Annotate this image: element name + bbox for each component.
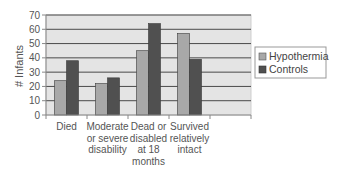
legend: Hypothermia Controls (255, 47, 329, 78)
bar-hypothermia (55, 81, 67, 115)
legend-label-controls: Controls (269, 63, 308, 75)
legend-swatch-hypothermia (259, 53, 266, 60)
y-tick-label: 30 (29, 67, 41, 78)
x-category-label: Died (56, 121, 77, 132)
y-axis-label: # Infants (13, 44, 25, 87)
y-tick-label: 60 (29, 24, 41, 35)
x-category-label: or severe (87, 133, 129, 144)
legend-label-hypothermia: Hypothermia (269, 50, 329, 62)
bar-controls (190, 59, 202, 115)
y-axis: 010203040506070 (29, 10, 46, 121)
x-category-label: months (132, 156, 165, 167)
x-category-label: relatively (170, 133, 209, 144)
legend-swatch-controls (259, 66, 266, 73)
x-category-label: disabled (130, 133, 167, 144)
x-category-label: Survived (170, 121, 209, 132)
bar-controls (108, 78, 120, 115)
x-category-label: Moderate (86, 121, 129, 132)
x-category-label: Dead or (131, 121, 167, 132)
y-tick-label: 50 (29, 38, 41, 49)
y-tick-label: 40 (29, 52, 41, 63)
bar-hypothermia (96, 84, 108, 115)
x-category-label: at 18 (137, 144, 160, 155)
y-tick-label: 20 (29, 81, 41, 92)
y-tick-label: 0 (34, 110, 40, 121)
bar-chart: 010203040506070 DiedModerateor severedis… (0, 0, 337, 178)
x-category-label: disability (88, 144, 126, 155)
x-category-label: intact (178, 144, 202, 155)
bar-hypothermia (137, 51, 149, 115)
bar-controls (67, 61, 79, 115)
y-tick-label: 10 (29, 95, 41, 106)
bar-controls (149, 24, 161, 115)
y-tick-label: 70 (29, 10, 41, 21)
bar-hypothermia (178, 34, 190, 115)
x-axis: DiedModerateor severedisabilityDead ordi… (46, 115, 251, 167)
